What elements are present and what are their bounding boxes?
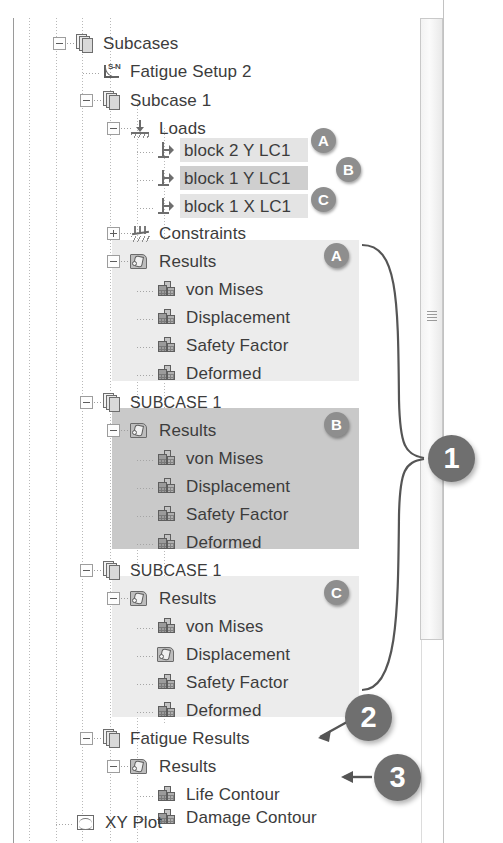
tree-item-results-b[interactable]: Results (130, 416, 216, 444)
expander-minus-results-fatigue[interactable] (107, 760, 120, 773)
expander-minus-results-a[interactable] (107, 255, 120, 268)
tree-item-label: Results (159, 590, 216, 607)
scroll-thumb-grip[interactable] (427, 311, 437, 321)
tree-item-label: Life Contour (186, 786, 280, 803)
badge-c-results: C (324, 580, 349, 605)
tree-item-label: Safety Factor (186, 506, 288, 523)
tree-item-label: Subcase 1 (130, 92, 211, 109)
contour-block-icon (157, 533, 178, 552)
tree-item-label: XY Plot (105, 814, 162, 831)
tree-item-displacement-a[interactable]: Displacement (157, 303, 290, 331)
vertical-scrollbar[interactable] (420, 18, 443, 640)
tree-connector (137, 180, 155, 181)
tree-connector (137, 796, 155, 797)
expander-minus-subcase-1[interactable] (80, 94, 93, 107)
force-arrow-icon (157, 141, 176, 160)
tree-item-fatigue-setup-2[interactable]: S-NFatigue Setup 2 (103, 57, 252, 85)
tree-item-label: Deformed (186, 365, 261, 382)
tree-connector (137, 208, 155, 209)
tree-connector (83, 73, 101, 74)
tree-item-label: SUBCASE 1 (130, 562, 222, 579)
tree-item-displacement-c[interactable]: Displacement (157, 640, 290, 668)
panel-right-border (443, 0, 444, 843)
tree-item-label: Results (159, 422, 216, 439)
tree-item-results-c[interactable]: Results (130, 584, 216, 612)
tree-connector (56, 824, 74, 825)
tree-item-safety-factor-a[interactable]: Safety Factor (157, 331, 288, 359)
tree-item-deformed-c[interactable]: Deformed (157, 696, 261, 724)
expander-minus-subcase-1-caps-b[interactable] (80, 396, 93, 409)
tree-item-label: block 2 Y LC1 (184, 142, 291, 159)
contour-block-icon (157, 364, 178, 383)
tree-item-label: Results (159, 253, 216, 270)
tree-item-safety-factor-b[interactable]: Safety Factor (157, 500, 288, 528)
results-hand-icon (130, 421, 151, 440)
pages-icon (76, 34, 95, 53)
tree-item-label: Subcases (103, 35, 178, 52)
expander-minus-fatigue-results[interactable] (80, 732, 93, 745)
tree-item-results-a[interactable]: Results (130, 247, 216, 275)
tree-connector (137, 544, 155, 545)
expander-minus-results-b[interactable] (107, 424, 120, 437)
expander-plus-constraints[interactable] (107, 227, 120, 240)
tree-item-block-1-y-lc1[interactable]: block 1 Y LC1 (157, 164, 291, 192)
force-arrow-icon (157, 197, 176, 216)
tree-item-label: SUBCASE 1 (130, 394, 222, 411)
tree-item-xy-plot[interactable]: XY Plot (76, 808, 162, 836)
pages-icon (103, 91, 122, 110)
tree-connector (137, 347, 155, 348)
tree-item-label: von Mises (186, 281, 263, 298)
tree-item-displacement-b[interactable]: Displacement (157, 472, 290, 500)
tree-connector (137, 291, 155, 292)
tree-connector (137, 375, 155, 376)
tree-item-block-1-x-lc1[interactable]: block 1 X LC1 (157, 192, 291, 220)
tree-item-label: Deformed (186, 702, 261, 719)
contour-block-icon (157, 617, 178, 636)
tree-item-deformed-a[interactable]: Deformed (157, 359, 261, 387)
callout-2: 2 (345, 694, 392, 741)
tree-item-label: block 1 X LC1 (184, 198, 291, 215)
tree-connector (137, 684, 155, 685)
badge-a-load: A (311, 128, 336, 153)
tree-item-label: von Mises (186, 450, 263, 467)
expander-minus-results-c[interactable] (107, 592, 120, 605)
tree-item-subcases[interactable]: Subcases (76, 29, 178, 57)
expander-minus-subcases[interactable] (53, 37, 66, 50)
results-hand-icon (130, 252, 151, 271)
tree-item-label: Displacement (186, 646, 290, 663)
tree-connector (137, 712, 155, 713)
tree-item-deformed-b[interactable]: Deformed (157, 528, 261, 556)
tree-item-label: Safety Factor (186, 674, 288, 691)
tree-connector (137, 460, 155, 461)
tree-item-label: block 1 Y LC1 (184, 170, 291, 187)
tree-item-subcase-1[interactable]: Subcase 1 (103, 86, 211, 114)
contour-block-icon (157, 336, 178, 355)
pages-icon (103, 393, 122, 412)
tree-item-safety-factor-c[interactable]: Safety Factor (157, 668, 288, 696)
contour-block-icon (157, 785, 178, 804)
expander-minus-loads[interactable] (107, 122, 120, 135)
expander-minus-subcase-1-caps-c[interactable] (80, 564, 93, 577)
constraints-icon (130, 224, 151, 243)
badge-b-results: B (324, 412, 349, 437)
tree-item-von-mises-a[interactable]: von Mises (157, 275, 263, 303)
tree-item-damage-contour[interactable]: Damage Contour (157, 803, 317, 831)
tree-item-subcase-1-caps-b[interactable]: SUBCASE 1 (103, 388, 222, 416)
tree-item-label: Displacement (186, 478, 290, 495)
tree-item-label: Deformed (186, 534, 261, 551)
tree-item-label: Loads (159, 120, 206, 137)
results-hand-icon (130, 589, 151, 608)
tree-connector (137, 516, 155, 517)
badge-b-load: B (336, 157, 361, 182)
force-arrow-icon (157, 169, 176, 188)
tree-connector (137, 628, 155, 629)
tree-item-von-mises-b[interactable]: von Mises (157, 444, 263, 472)
xy-plot-icon (76, 813, 97, 832)
tree-item-fatigue-results[interactable]: Fatigue Results (103, 724, 250, 752)
tree-item-subcase-1-caps-c[interactable]: SUBCASE 1 (103, 556, 222, 584)
tree-item-von-mises-c[interactable]: von Mises (157, 612, 263, 640)
tree-item-results-fatigue[interactable]: Results (130, 752, 216, 780)
tree-item-constraints[interactable]: Constraints (130, 219, 246, 247)
tree-item-block-2-y-lc1[interactable]: block 2 Y LC1 (157, 136, 291, 164)
pages-icon (103, 561, 122, 580)
